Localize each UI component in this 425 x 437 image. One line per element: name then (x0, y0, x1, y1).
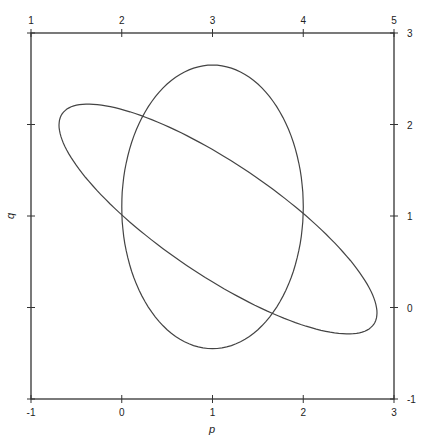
bottom-tick-label: 0 (119, 407, 125, 418)
top-tick-label: 4 (300, 15, 306, 26)
bottom-tick-label: 2 (300, 407, 306, 418)
top-tick-label: 2 (119, 15, 125, 26)
chart: -1012312345-10123 p q (0, 0, 425, 437)
ellipse-upright-curve (122, 65, 303, 349)
tick-labels: -1012312345-10123 (27, 15, 417, 418)
ellipse-tilted-curve (59, 104, 377, 334)
right-tick-label: 2 (407, 120, 413, 131)
y-axis-label: q (4, 212, 16, 219)
right-tick-label: 3 (407, 28, 413, 39)
x-axis-label: p (208, 423, 215, 435)
bottom-tick-label: 1 (210, 407, 216, 418)
right-tick-label: 0 (407, 303, 413, 314)
top-tick-label: 1 (28, 15, 34, 26)
right-tick-label: 1 (407, 211, 413, 222)
bottom-tick-label: 3 (391, 407, 397, 418)
top-tick-label: 3 (210, 15, 216, 26)
top-tick-label: 5 (391, 15, 397, 26)
right-tick-label: -1 (407, 394, 416, 405)
bottom-tick-label: -1 (27, 407, 36, 418)
axis-ticks (27, 29, 398, 403)
plot-frame (31, 33, 394, 399)
